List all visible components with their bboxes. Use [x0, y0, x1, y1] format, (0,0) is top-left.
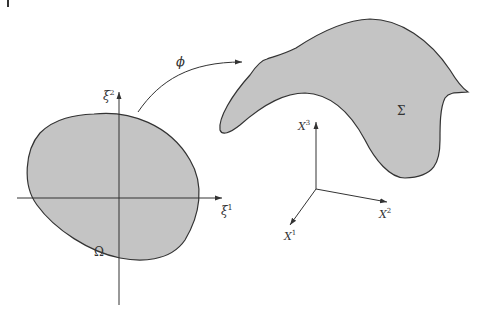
- omega-region: [27, 113, 199, 260]
- diagram-canvas: ξ2 ξ1 Ω ϕ Σ X3 X2 X1: [0, 0, 489, 317]
- x2-label: X2: [378, 207, 391, 221]
- xi2-label: ξ2: [103, 88, 115, 103]
- x3-label: X3: [297, 119, 310, 133]
- x1-axis: [290, 189, 316, 225]
- x1-label: X1: [283, 229, 296, 243]
- phi-label: ϕ: [176, 54, 185, 69]
- mapping-arrow: [138, 62, 242, 112]
- sigma-surface: [220, 19, 468, 178]
- x2-axis: [316, 189, 387, 202]
- sigma-label: Σ: [397, 104, 405, 118]
- xi1-label: ξ1: [221, 203, 233, 218]
- omega-label: Ω: [94, 245, 104, 259]
